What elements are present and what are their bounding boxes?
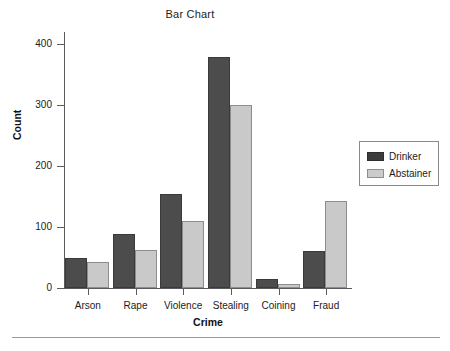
y-tick-label: 0: [0, 282, 52, 293]
bar-arson-drinker: [65, 258, 87, 288]
bar-violence-drinker: [160, 194, 182, 288]
y-tick-mark: [57, 288, 64, 289]
y-tick-label: 100: [0, 221, 52, 232]
y-tick-mark: [57, 44, 64, 45]
legend-item-abstainer[interactable]: Abstainer: [367, 165, 432, 181]
x-tick-mark: [231, 288, 232, 295]
y-tick-label: 200: [0, 160, 52, 171]
plot-area: [64, 32, 350, 288]
chart-legend: DrinkerAbstainer: [359, 141, 439, 186]
y-tick-mark: [57, 105, 64, 106]
legend-swatch-icon: [367, 169, 384, 178]
chart-title: Bar Chart: [0, 8, 380, 20]
x-tick-mark: [326, 288, 327, 295]
x-tick-mark: [279, 288, 280, 295]
x-tick-mark: [183, 288, 184, 295]
bar-violence-abstainer: [182, 221, 204, 288]
bar-fraud-abstainer: [325, 201, 347, 288]
x-tick-mark: [88, 288, 89, 295]
legend-item-drinker[interactable]: Drinker: [367, 148, 432, 164]
y-tick-label: 400: [0, 38, 52, 49]
bar-coining-drinker: [256, 279, 278, 288]
legend-label: Drinker: [389, 151, 421, 162]
bar-arson-abstainer: [87, 262, 109, 288]
bar-stealing-drinker: [208, 57, 230, 288]
x-tick-label-fraud: Fraud: [296, 300, 356, 311]
bottom-divider: [12, 337, 440, 338]
legend-label: Abstainer: [389, 168, 431, 179]
y-axis-title: Count: [11, 110, 23, 140]
bar-chart-figure: Bar Chart 0100200300400 ArsonRapeViolenc…: [0, 0, 450, 351]
bar-stealing-abstainer: [230, 105, 252, 288]
x-tick-mark: [136, 288, 137, 295]
x-axis-line: [64, 288, 352, 289]
bar-coining-abstainer: [278, 284, 300, 288]
y-tick-mark: [57, 166, 64, 167]
bar-rape-abstainer: [135, 250, 157, 288]
y-tick-label: 300: [0, 99, 52, 110]
legend-swatch-icon: [367, 152, 384, 161]
bar-fraud-drinker: [303, 251, 325, 288]
y-tick-mark: [57, 227, 64, 228]
bar-rape-drinker: [113, 234, 135, 288]
x-axis-title: Crime: [64, 316, 352, 328]
